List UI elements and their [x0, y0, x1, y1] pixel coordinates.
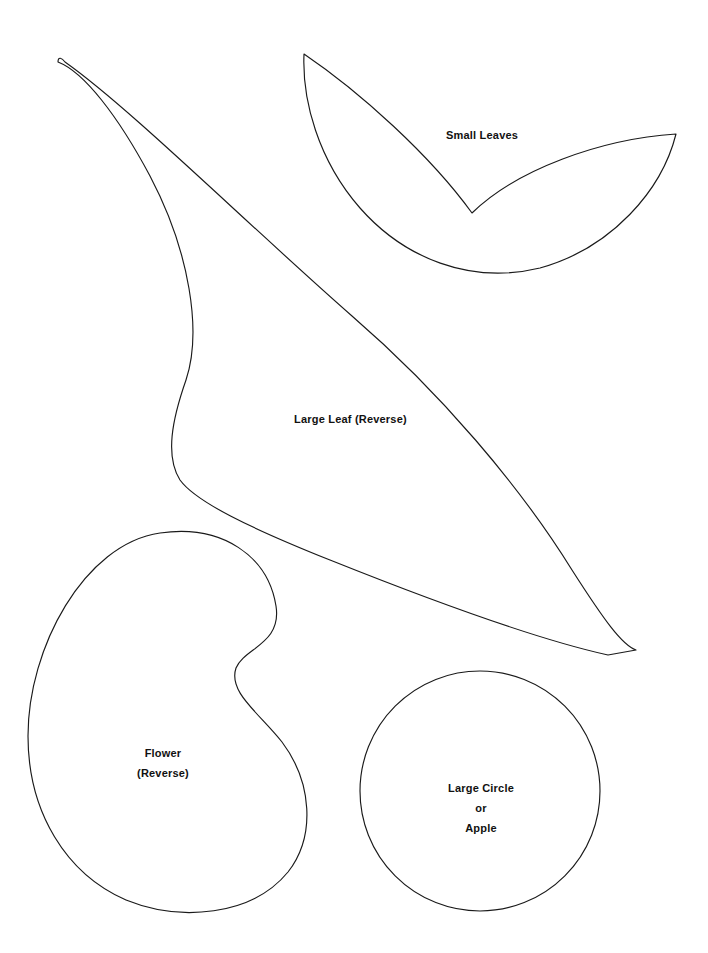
shape-small-leaves[interactable]	[304, 54, 676, 273]
label-large-circle-line-0: Large Circle	[440, 783, 522, 794]
label-large-circle-line-1: or	[440, 803, 522, 814]
pattern-sheet: Small Leaves Large Leaf (Reverse) Flower…	[0, 0, 708, 953]
shape-flower[interactable]	[28, 531, 307, 912]
label-flower: Flower (Reverse)	[121, 748, 205, 779]
label-flower-line-1: (Reverse)	[121, 768, 205, 779]
label-large-circle: Large Circle or Apple	[440, 783, 522, 834]
label-small-leaves-line-0: Small Leaves	[446, 130, 518, 141]
label-large-leaf: Large Leaf (Reverse)	[294, 414, 407, 425]
label-large-circle-line-2: Apple	[440, 823, 522, 834]
label-small-leaves: Small Leaves	[446, 130, 518, 141]
pattern-shapes-canvas	[0, 0, 708, 953]
label-large-leaf-line-0: Large Leaf (Reverse)	[294, 414, 407, 425]
label-flower-line-0: Flower	[121, 748, 205, 759]
